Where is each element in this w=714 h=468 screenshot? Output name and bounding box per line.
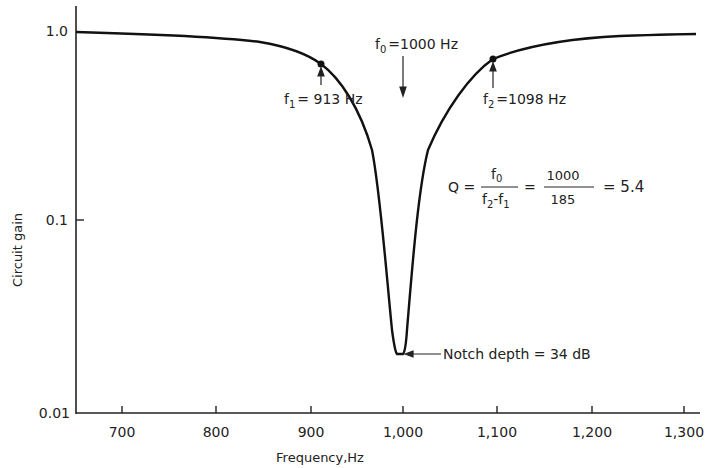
svg-text:= 5.4: = 5.4 <box>603 178 644 196</box>
y-tick-label: 0.01 <box>39 405 70 421</box>
x-tick-label: 1,300 <box>664 424 704 440</box>
notch-filter-chart: 1.0 0.1 0.01 700 800 900 1,000 1,100 1,2… <box>0 0 714 468</box>
x-tick-label: 1,000 <box>383 424 423 440</box>
svg-text:f2-f1: f2-f1 <box>482 191 510 210</box>
svg-text:=: = <box>524 179 536 195</box>
x-axis-label: Frequency,Hz <box>276 450 364 465</box>
f1-arrow-icon <box>318 68 324 85</box>
f0-arrow-icon <box>400 56 406 96</box>
x-tick-label: 900 <box>298 424 325 440</box>
y-axis-label: Circuit gain <box>10 213 25 287</box>
f2-label: f2=1098 Hz <box>483 91 566 110</box>
f1-label: f1= 913 Hz <box>284 91 363 110</box>
y-tick-label: 0.1 <box>46 212 68 228</box>
x-tick-label: 1,100 <box>477 424 517 440</box>
f2-arrow-icon <box>490 63 496 88</box>
x-tick-label: 800 <box>203 424 230 440</box>
x-ticks <box>122 406 684 413</box>
q-equation: Q = f0 f2-f1 = 1000 185 = 5.4 <box>448 166 644 210</box>
y-tick-label: 1.0 <box>46 23 68 39</box>
svg-text:185: 185 <box>551 192 576 207</box>
f0-label: f0=1000 Hz <box>375 36 458 55</box>
svg-text:1000: 1000 <box>546 168 579 183</box>
notch-arrow-icon <box>405 351 441 357</box>
svg-text:Q =: Q = <box>448 179 475 195</box>
svg-text:f0: f0 <box>491 166 502 184</box>
x-tick-label: 1,200 <box>572 424 612 440</box>
x-tick-label: 700 <box>109 424 136 440</box>
notch-depth-label: Notch depth = 34 dB <box>443 346 591 362</box>
